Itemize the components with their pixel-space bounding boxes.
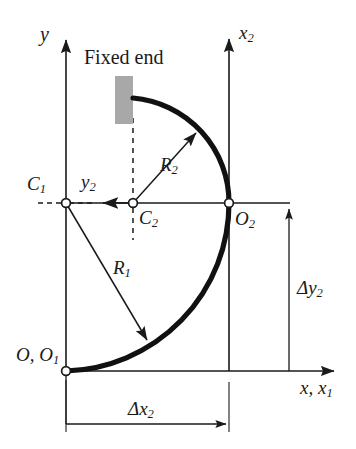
label-point-c1-base: C xyxy=(27,173,40,194)
label-point-o-o1: O, O1 xyxy=(16,345,59,366)
node-O2 xyxy=(225,199,234,208)
label-point-o-o1-sub: 1 xyxy=(53,353,59,367)
label-point-c2-sub: 2 xyxy=(152,216,158,230)
label-delta-y2: Δy2 xyxy=(297,278,323,299)
label-radius-r1-base: R xyxy=(113,257,125,278)
label-radius-r2-sub: 2 xyxy=(172,163,178,177)
label-point-c1: C1 xyxy=(27,174,46,195)
label-delta-y2-base: Δy xyxy=(297,277,317,298)
node-O-O1 xyxy=(62,367,71,376)
label-delta-x2: Δx2 xyxy=(128,399,154,420)
label-axis-y2-sub: 2 xyxy=(89,180,95,194)
figure-canvas: y x2 Fixed end C1 y2 C2 O2 R2 R1 Δy2 O, … xyxy=(0,0,356,449)
label-radius-r1-sub: 1 xyxy=(125,266,131,280)
label-radius-r1: R1 xyxy=(113,258,131,279)
radius-R1-arrow xyxy=(66,203,147,340)
label-point-c2-base: C xyxy=(139,207,152,228)
label-point-o2: O2 xyxy=(235,209,255,230)
label-axis-x-x1-base: x, x xyxy=(300,377,326,398)
node-C2 xyxy=(129,199,138,208)
label-axis-x-x1-sub: 1 xyxy=(326,386,332,400)
label-axis-x2-sub: 2 xyxy=(247,31,253,45)
label-delta-y2-sub: 2 xyxy=(317,286,323,300)
label-point-o-o1-base: O, O xyxy=(16,344,53,365)
label-radius-r2: R2 xyxy=(160,155,178,176)
label-axis-y2: y2 xyxy=(81,172,96,193)
label-radius-r2-base: R xyxy=(160,154,172,175)
label-point-c2: C2 xyxy=(139,208,158,229)
label-delta-x2-sub: 2 xyxy=(148,407,154,421)
label-axis-x-x1: x, x1 xyxy=(300,378,333,399)
fixed-end-block xyxy=(115,76,133,124)
label-fixed-end: Fixed end xyxy=(84,47,163,67)
label-point-o2-sub: 2 xyxy=(249,217,255,231)
label-point-o2-base: O xyxy=(235,208,249,229)
beam-curves xyxy=(66,98,229,371)
label-delta-x2-base: Δx xyxy=(128,398,148,419)
label-axis-x2: x2 xyxy=(239,23,254,44)
label-axis-y: y xyxy=(40,24,49,44)
node-C1 xyxy=(62,199,71,208)
label-point-c1-sub: 1 xyxy=(40,182,46,196)
